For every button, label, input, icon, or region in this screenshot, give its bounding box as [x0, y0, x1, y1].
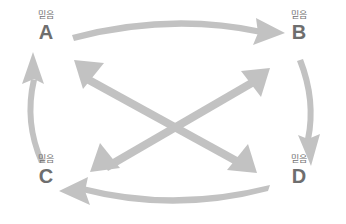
arrow-d-to-c — [59, 177, 270, 205]
node-d: 믿음 D — [272, 154, 326, 187]
node-c-sublabel: 믿음 — [19, 154, 73, 165]
node-c-letter: C — [19, 165, 73, 187]
node-a-sublabel: 믿음 — [19, 10, 73, 21]
node-b: 믿음 B — [272, 10, 326, 43]
node-a-letter: A — [19, 21, 73, 43]
node-b-letter: B — [272, 21, 326, 43]
arrow-a-to-b — [72, 18, 285, 45]
node-d-letter: D — [272, 165, 326, 187]
node-b-sublabel: 믿음 — [272, 10, 326, 21]
node-d-sublabel: 믿음 — [272, 154, 326, 165]
node-a: 믿음 A — [19, 10, 73, 43]
arrow-c-to-a — [22, 52, 45, 163]
node-c: 믿음 C — [19, 154, 73, 187]
arrow-b-to-d — [297, 59, 320, 166]
relationship-diagram: 믿음 A 믿음 B 믿음 C 믿음 D — [0, 0, 346, 224]
